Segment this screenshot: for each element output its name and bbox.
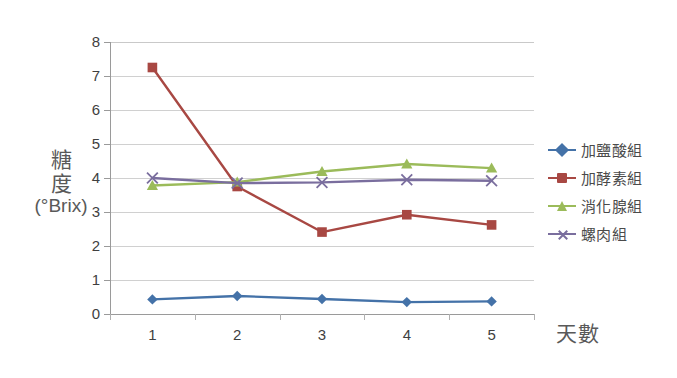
gridline-y-1 [110, 280, 534, 281]
y-tick-mark-8 [104, 42, 110, 43]
gridline-y-2 [110, 246, 534, 247]
x-tick-label-5: 5 [477, 326, 507, 343]
y-tick-mark-2 [104, 246, 110, 247]
x-tick-mark-1 [195, 314, 196, 320]
x-tick-label-3: 3 [307, 326, 337, 343]
legend-swatch-square-icon [548, 170, 576, 186]
legend-item-3[interactable]: 消化腺組 [548, 192, 674, 219]
y-tick-mark-6 [104, 110, 110, 111]
y-tick-mark-7 [104, 76, 110, 77]
gridline-y-4 [110, 178, 534, 179]
x-tick-mark-5 [534, 314, 535, 320]
legend-item-1[interactable]: 加鹽酸組 [548, 136, 674, 163]
legend-item-2[interactable]: 加酵素組 [548, 164, 674, 191]
y-tick-mark-5 [104, 144, 110, 145]
x-axis-line [110, 314, 535, 315]
y-tick-label-7: 7 [78, 68, 100, 83]
x-tick-mark-3 [364, 314, 365, 320]
y-tick-mark-4 [104, 178, 110, 179]
gridline-y-8 [110, 42, 534, 43]
x-tick-mark-4 [449, 314, 450, 320]
y-tick-label-1: 1 [78, 272, 100, 287]
legend-swatch-diamond-icon [548, 142, 576, 158]
legend-label: 螺肉組 [581, 223, 627, 244]
legend-label: 加鹽酸組 [581, 139, 642, 160]
x-tick-label-1: 1 [137, 326, 167, 343]
legend-swatch-triangle-icon [548, 198, 576, 214]
square-marker-icon [557, 173, 567, 183]
x-tick-label-2: 2 [222, 326, 252, 343]
gridline-y-3 [110, 212, 534, 213]
x-axis-title: 天數 [556, 317, 600, 347]
y-tick-label-6: 6 [78, 102, 100, 117]
y-tick-label-5: 5 [78, 136, 100, 151]
legend-swatch-cross-icon [548, 226, 576, 242]
x-tick-label-4: 4 [392, 326, 422, 343]
gridline-y-7 [110, 76, 534, 77]
x-tick-mark-2 [280, 314, 281, 320]
y-tick-label-3: 3 [78, 204, 100, 219]
triangle-marker-icon [557, 201, 567, 211]
y-tick-mark-1 [104, 280, 110, 281]
y-tick-label-8: 8 [78, 34, 100, 49]
cross-marker-icon [557, 229, 567, 239]
legend: 加鹽酸組加酵素組消化腺組螺肉組 [548, 136, 674, 248]
y-tick-mark-3 [104, 212, 110, 213]
diamond-marker-icon [555, 142, 569, 156]
y-tick-label-0: 0 [78, 306, 100, 321]
y-axis-line [110, 42, 111, 315]
gridlines [110, 42, 534, 314]
chart-container: 糖 度 (°Brix) 012345678 12345 天數 加鹽酸組加酵素組消… [0, 0, 677, 378]
legend-item-4[interactable]: 螺肉組 [548, 220, 674, 247]
plot-area [110, 42, 534, 314]
gridline-y-6 [110, 110, 534, 111]
y-tick-label-4: 4 [78, 170, 100, 185]
legend-label: 加酵素組 [581, 167, 642, 188]
legend-label: 消化腺組 [581, 195, 642, 216]
gridline-y-5 [110, 144, 534, 145]
y-tick-label-2: 2 [78, 238, 100, 253]
y-axis-tick-labels: 012345678 [72, 0, 100, 378]
x-tick-mark-0 [110, 314, 111, 320]
